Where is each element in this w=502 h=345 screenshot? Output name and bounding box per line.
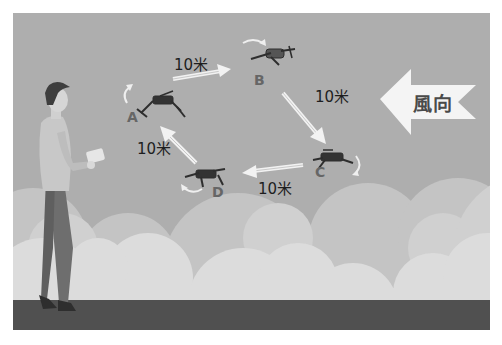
arrow-head-ab xyxy=(217,64,231,77)
waypoint-label-d: D xyxy=(212,184,224,200)
distance-label-cd: 10米 xyxy=(258,177,292,198)
waypoint-label-c: C xyxy=(315,164,325,180)
waypoint-label-b: B xyxy=(254,72,265,88)
distance-label-da: 10米 xyxy=(137,137,171,158)
distance-label-ab: 10米 xyxy=(174,53,208,74)
rotation-icon-c xyxy=(356,156,360,173)
arrow-head-cd xyxy=(242,165,257,178)
flight-diagram-scene: 10米 10米 10米 10米 A B C D 風向 xyxy=(13,13,490,330)
scene-background xyxy=(13,13,490,330)
drone-a xyxy=(137,91,185,117)
flight-path-arrows xyxy=(160,64,326,178)
distance-label-bc: 10米 xyxy=(315,85,349,106)
waypoint-label-a: A xyxy=(127,109,138,125)
ground xyxy=(13,300,490,330)
drone-b xyxy=(251,46,295,65)
wind-direction-label: 風向 xyxy=(413,89,453,116)
